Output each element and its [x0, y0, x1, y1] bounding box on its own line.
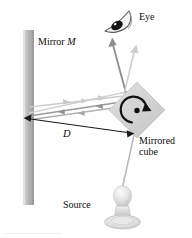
- label-mirror-symbol: M: [67, 36, 75, 47]
- eye-icon: [105, 11, 132, 32]
- label-cube-line1: Mirrored: [139, 135, 175, 146]
- label-mirror-m: Mirror M: [38, 37, 76, 48]
- label-source: Source: [63, 200, 91, 211]
- label-mirrored-cube: Mirroredcube: [139, 136, 175, 157]
- label-eye: Eye: [139, 12, 155, 23]
- physics-diagram-figure: Mirror M Eye D Mirroredcube Source: [0, 0, 192, 238]
- light-source-bulb: [105, 176, 141, 229]
- label-mirror-text: Mirror: [38, 36, 67, 47]
- beam-cube-to-eye: [108, 38, 126, 94]
- diagram-canvas: [0, 0, 192, 238]
- label-distance-d: D: [63, 128, 71, 139]
- label-cube-line2: cube: [139, 146, 158, 157]
